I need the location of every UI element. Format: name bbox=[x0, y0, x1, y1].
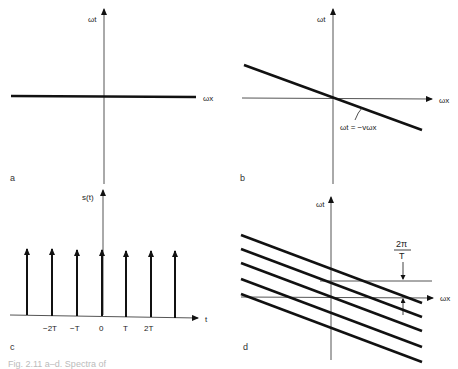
panel-d-y-label: ωt bbox=[316, 200, 325, 209]
tick-label-minus-2T: −2T bbox=[43, 324, 57, 333]
panel-b-x-label: ωx bbox=[439, 96, 449, 105]
panel-b-leader-line bbox=[355, 108, 362, 120]
panel-b-label: b bbox=[240, 173, 245, 183]
impulse-train bbox=[27, 249, 175, 318]
spacing-denominator: T bbox=[399, 251, 405, 261]
tick-label-2T: 2T bbox=[144, 324, 153, 333]
panel-c-x-axis bbox=[10, 315, 198, 318]
tick-label-minus-T: −T bbox=[70, 324, 80, 333]
tick-label-T: T bbox=[123, 324, 128, 333]
spacing-numerator: 2π bbox=[396, 239, 407, 249]
panel-a-x-label: ωx bbox=[203, 94, 213, 103]
panel-a-label: a bbox=[10, 173, 15, 183]
panel-c-y-label: s(t) bbox=[82, 193, 94, 202]
panel-c-label: c bbox=[10, 342, 15, 352]
panel-a: ωt ωx a bbox=[10, 9, 213, 184]
panel-b: ωt ωx ωt = −vωx b bbox=[240, 9, 449, 184]
panel-d-label: d bbox=[243, 342, 248, 352]
tick-label-zero: 0 bbox=[99, 324, 104, 333]
panel-d-x-label: ωx bbox=[440, 294, 450, 303]
panel-c: s(t) t −2T −T 0 T 2T c bbox=[10, 190, 208, 352]
panel-a-spectrum-line bbox=[11, 96, 196, 97]
panel-a-y-label: ωt bbox=[88, 15, 97, 24]
panel-d: 2π T ωt ωx d bbox=[241, 197, 450, 362]
panel-b-equation: ωt = −vωx bbox=[340, 123, 377, 132]
panel-b-y-label: ωt bbox=[317, 15, 326, 24]
panel-c-x-label: t bbox=[205, 315, 208, 324]
figure-caption: Fig. 2.11 a–d. Spectra of bbox=[8, 359, 106, 369]
